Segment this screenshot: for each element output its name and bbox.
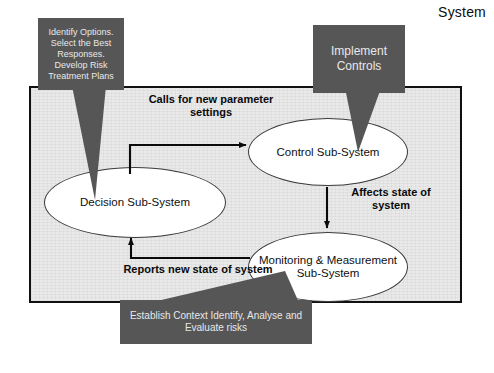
system-boundary-label: System bbox=[438, 4, 486, 20]
callout-establish-label: Establish Context Identify, Analyse and … bbox=[124, 310, 308, 335]
callout-implement-controls[interactable]: Implement Controls bbox=[313, 25, 405, 93]
callout-identify-label: Identify Options. Select the Best Respon… bbox=[42, 27, 120, 82]
node-decision-sub-system[interactable]: Decision Sub-System bbox=[44, 167, 226, 238]
flow-label-calls-for-new-parameter-settings: Calls for new parameter settings bbox=[136, 93, 286, 119]
callout-implement-label: Implement Controls bbox=[317, 44, 401, 74]
node-control-label: Control Sub-System bbox=[277, 146, 380, 159]
diagram-canvas: System Decision Sub-System Control Sub-S… bbox=[0, 0, 494, 373]
callout-establish-context[interactable]: Establish Context Identify, Analyse and … bbox=[120, 300, 312, 344]
flow-label-affects-state-of-system: Affects state of system bbox=[336, 186, 446, 212]
node-control-sub-system[interactable]: Control Sub-System bbox=[248, 118, 408, 186]
flow-label-reports-new-state-of-system: Reports new state of system bbox=[122, 263, 274, 276]
callout-identify-options[interactable]: Identify Options. Select the Best Respon… bbox=[38, 18, 124, 90]
node-monitor-label: Monitoring & Measurement Sub-System bbox=[255, 254, 401, 280]
node-decision-label: Decision Sub-System bbox=[80, 196, 190, 209]
